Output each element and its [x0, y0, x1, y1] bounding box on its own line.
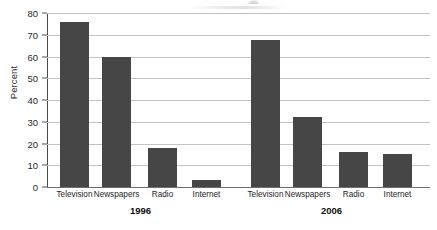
category-label-1996-radio: Radio: [152, 190, 173, 199]
category-label-1996-internet: Internet: [193, 190, 221, 199]
category-label-2006-newspapers: Newspapers: [285, 190, 331, 199]
category-label-group: TelevisionNewspapersRadioInternet1996Tel…: [0, 0, 437, 230]
category-label-1996-television: Television: [57, 190, 93, 199]
group-label-2006: 2006: [321, 205, 342, 216]
category-label-1996-newspapers: Newspapers: [94, 190, 140, 199]
group-label-1996: 1996: [130, 205, 151, 216]
bar-chart-figure: Percent 01020304050607080 TelevisionNews…: [0, 0, 437, 230]
category-label-2006-television: Television: [248, 190, 284, 199]
category-label-2006-internet: Internet: [384, 190, 412, 199]
category-label-2006-radio: Radio: [343, 190, 364, 199]
